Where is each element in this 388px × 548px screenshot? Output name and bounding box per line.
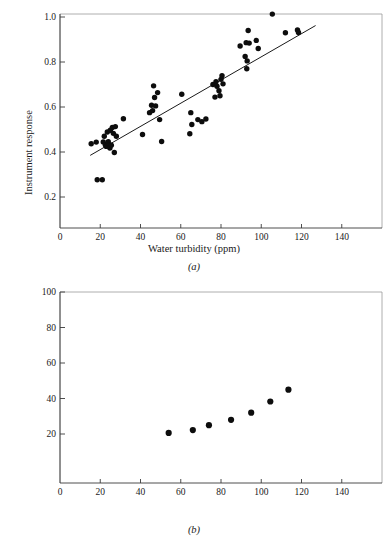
data-point: [244, 66, 249, 71]
y-axis-tick-label: 0.6: [44, 102, 56, 112]
x-axis-title-a: Water turbidity (ppm): [0, 243, 388, 254]
data-point: [155, 90, 160, 95]
data-point: [254, 38, 259, 43]
data-point: [237, 43, 242, 48]
x-axis-tick-label: 0: [58, 487, 63, 497]
plot-frame: [60, 14, 382, 228]
data-point: [246, 40, 251, 45]
data-point: [203, 116, 208, 121]
data-point: [159, 139, 164, 144]
data-point: [212, 94, 217, 99]
data-point: [267, 398, 273, 404]
x-axis-tick-label: 100: [254, 487, 269, 497]
y-axis-tick-label: 0.4: [44, 147, 56, 157]
x-axis-tick-label: 120: [294, 232, 309, 242]
chart-panel-b: 02040608010012014020406080100 Water turb…: [0, 274, 388, 548]
chart-panel-a: 0204060801001201400.20.40.60.81.0 Water …: [0, 0, 388, 274]
x-axis-tick-label: 140: [335, 487, 350, 497]
x-axis-tick-label: 0: [58, 232, 63, 242]
data-point: [188, 110, 193, 115]
data-point: [213, 79, 218, 84]
panel-caption-a: (a): [0, 261, 388, 272]
y-axis-title-a: Instrument response: [23, 110, 34, 195]
x-axis-tick-label: 40: [136, 232, 146, 242]
data-point: [206, 422, 212, 428]
x-axis-tick-label: 40: [136, 487, 146, 497]
data-point: [219, 73, 224, 78]
y-axis-tick-label: 0.2: [44, 192, 56, 202]
data-point: [217, 93, 222, 98]
data-point: [245, 28, 250, 33]
x-axis-tick-label: 80: [216, 487, 226, 497]
y-axis-tick-label: 100: [42, 287, 57, 297]
data-point: [187, 131, 192, 136]
x-axis-tick-label: 60: [176, 232, 186, 242]
data-point: [220, 81, 225, 86]
figure-container: 0204060801001201400.20.40.60.81.0 Water …: [0, 0, 388, 548]
data-point: [244, 58, 249, 63]
data-point: [152, 95, 157, 100]
x-axis-tick-label: 60: [176, 487, 186, 497]
data-point: [112, 150, 117, 155]
data-point: [151, 83, 156, 88]
x-axis-tick-label: 140: [335, 232, 350, 242]
data-point: [256, 46, 261, 51]
data-point: [95, 177, 100, 182]
data-point: [166, 430, 172, 436]
y-axis-tick-label: 1.0: [44, 12, 56, 22]
data-point: [109, 143, 114, 148]
y-axis-tick-label: 0.8: [44, 57, 56, 67]
x-axis-tick-label: 20: [96, 487, 106, 497]
data-point: [157, 117, 162, 122]
y-axis-tick-label: 20: [47, 429, 57, 439]
panel-caption-b: (b): [0, 524, 388, 535]
data-point: [100, 177, 105, 182]
x-axis-tick-label: 100: [254, 232, 269, 242]
data-point: [216, 88, 221, 93]
x-axis-tick-label: 120: [294, 487, 309, 497]
y-axis-tick-label: 80: [47, 323, 57, 333]
data-point: [285, 387, 291, 393]
y-axis-tick-label: 40: [47, 394, 57, 404]
scatter-plot-a: 0204060801001201400.20.40.60.81.0: [0, 0, 388, 274]
data-point: [114, 134, 119, 139]
data-point: [248, 410, 254, 416]
scatter-plot-b: 02040608010012014020406080100: [0, 274, 388, 548]
data-point: [88, 141, 93, 146]
data-point: [150, 108, 155, 113]
data-point: [270, 11, 275, 16]
data-point: [140, 132, 145, 137]
x-axis-tick-label: 80: [216, 232, 226, 242]
data-point: [121, 116, 126, 121]
data-point: [153, 103, 158, 108]
data-point: [189, 122, 194, 127]
x-axis-tick-label: 20: [96, 232, 106, 242]
data-point: [283, 30, 288, 35]
data-point: [94, 139, 99, 144]
y-axis-tick-label: 60: [47, 358, 57, 368]
plot-frame: [60, 292, 382, 483]
data-point: [190, 427, 196, 433]
data-point: [179, 91, 184, 96]
data-point: [296, 30, 301, 35]
data-point: [228, 417, 234, 423]
regression-line: [90, 26, 315, 156]
data-point: [113, 124, 118, 129]
